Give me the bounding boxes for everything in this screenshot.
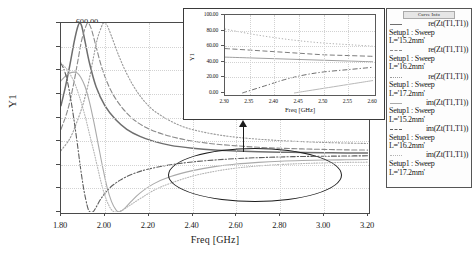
gridline [149, 23, 150, 213]
inset-x-tick-label: 2.55 [335, 98, 359, 104]
gridline [61, 141, 369, 142]
inset-plot-area [224, 14, 376, 96]
legend-param-value: L='16.2mm' [389, 63, 469, 72]
legend-title: Curve Info [403, 11, 455, 19]
legend-entry[interactable]: im(Zt(T1,T1))Setup1 : SweepL='16.2mm' [389, 125, 469, 151]
callout-arrow-head [239, 120, 247, 127]
main-x-axis-title: Freq [GHz] [60, 234, 370, 245]
gridline [274, 15, 275, 95]
inset-y-tick-label: 20.00 [206, 73, 218, 79]
inset-x-tick-label: 2.30 [212, 98, 236, 104]
x-tick-label: 2.20 [128, 220, 168, 230]
gridline [348, 15, 349, 95]
legend-line-swatch [390, 155, 402, 156]
gridline [250, 15, 251, 95]
gridline [299, 15, 300, 95]
inset-x-tick-label: 2.45 [286, 98, 310, 104]
inset-x-tick-label: 2.35 [237, 98, 261, 104]
inset-y-axis-title: Y1 [188, 53, 195, 61]
inset-y-tick-label: 0.00 [209, 89, 218, 95]
legend-box: Curve Info re(Zt(T1,T1))Setup1 : SweepL=… [386, 8, 472, 188]
legend-line-swatch [390, 77, 402, 78]
x-tick-label: 2.80 [259, 220, 299, 230]
x-tick-label: 2.60 [215, 220, 255, 230]
inset-chart: Y1 100.0080.0060.0040.0020.000.00 2.302.… [183, 8, 385, 120]
gridline [324, 15, 325, 95]
legend-entry[interactable]: re(Zt(T1,T1))Setup1 : SweepL='16.2mm' [389, 46, 469, 72]
gridline [61, 188, 369, 189]
gridline [225, 62, 375, 63]
gridline [105, 23, 106, 213]
legend-entry[interactable]: re(Zt(T1,T1))Setup1 : SweepL='17.2mm' [389, 73, 469, 99]
callout-arrow-line [243, 124, 244, 152]
x-tick-label: 1.80 [40, 220, 80, 230]
legend-entry[interactable]: re(Zt(T1,T1))Setup1 : SweepL='15.2mm' [389, 20, 469, 46]
inset-y-tick-label: 80.00 [206, 27, 218, 33]
gridline [225, 46, 375, 47]
inset-y-tick-label: 60.00 [206, 42, 218, 48]
legend-entries: re(Zt(T1,T1))Setup1 : SweepL='15.2mm're(… [389, 20, 469, 177]
main-y-axis-title: Y1 [6, 94, 18, 108]
inset-x-tick-label: 2.60 [360, 98, 384, 104]
inset-x-axis-title: Freq [GHz] [224, 106, 376, 113]
inset-x-tick-label: 2.50 [311, 98, 335, 104]
x-tick-label: 2.40 [172, 220, 212, 230]
inset-curve-3 [242, 67, 373, 93]
inset-curves [225, 15, 375, 95]
inset-y-tick-label: 40.00 [206, 58, 218, 64]
legend-param-value: L='17.2mm' [389, 169, 469, 178]
x-tick-label: 2.00 [84, 220, 124, 230]
legend-line-swatch [390, 103, 402, 104]
inset-y-tick-label: 100.00 [204, 11, 218, 17]
legend-line-swatch [390, 24, 402, 25]
gridline [225, 77, 375, 78]
legend-line-swatch [390, 129, 402, 130]
x-tick-label: 3.00 [303, 220, 343, 230]
legend-line-swatch [390, 50, 402, 51]
gridline [225, 31, 375, 32]
chart-root: Y1 600.00500.00400.00300.00200.00100.000… [0, 0, 476, 268]
inset-curve-4 [294, 81, 373, 93]
legend-entry[interactable]: im(Zt(T1,T1))Setup1 : SweepL='17.2mm' [389, 151, 469, 177]
gridline [61, 165, 369, 166]
inset-x-tick-label: 2.40 [261, 98, 285, 104]
x-tick-label: 3.20 [347, 220, 387, 230]
legend-entry[interactable]: im(Zt(T1,T1))Setup1 : SweepL='15.2mm' [389, 99, 469, 125]
